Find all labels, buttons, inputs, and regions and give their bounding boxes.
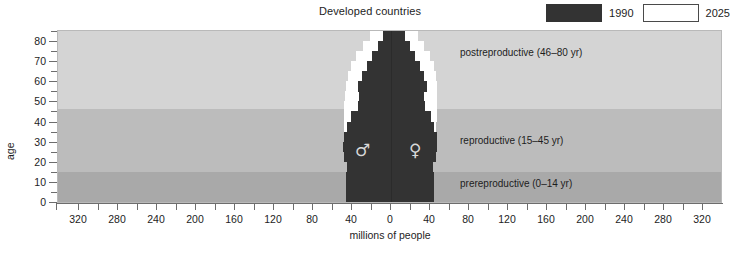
y-tick-label-70: 70	[34, 55, 46, 67]
x-tick-label-10: 80	[462, 213, 474, 225]
y-tick-label-50: 50	[34, 95, 46, 107]
x-tick-label-8: 0	[387, 213, 393, 225]
x-tick-label-9: 40	[423, 213, 435, 225]
bar-1990-male-45-49	[358, 101, 391, 112]
bar-1990-female-50-54	[391, 91, 424, 102]
y-tick-label-80: 80	[34, 35, 46, 47]
y-tick-label-30: 30	[34, 136, 46, 148]
x-tick-280	[663, 203, 664, 210]
bar-1990-male-65-69	[367, 61, 391, 72]
x-tick--200	[195, 203, 196, 210]
age-band-label-2: postreproductive (46–80 yr)	[460, 47, 582, 58]
x-tick-80	[468, 203, 469, 210]
y-tick-label-60: 60	[34, 75, 46, 87]
y-tick-70	[49, 61, 57, 62]
bar-1990-male-0-4	[346, 192, 391, 203]
x-tick--100	[293, 203, 294, 210]
y-tick-50	[49, 101, 57, 102]
x-tick--180	[215, 203, 216, 210]
bar-1990-female-80-84	[391, 31, 405, 42]
x-tick--240	[156, 203, 157, 210]
bar-1990-female-55-59	[391, 81, 427, 92]
y-tick-label-0: 0	[40, 196, 46, 208]
bar-1990-male-60-64	[362, 71, 391, 82]
x-tick--300	[98, 203, 99, 210]
x-tick--280	[117, 203, 118, 210]
bar-1990-male-40-44	[351, 111, 391, 122]
x-tick-240	[624, 203, 625, 210]
male-symbol-icon: ♂	[355, 142, 370, 159]
bar-1990-female-75-79	[391, 41, 410, 52]
x-tick--40	[351, 203, 352, 210]
age-band-label-0: prereproductive (0–14 yr)	[460, 178, 572, 189]
bar-1990-female-60-64	[391, 71, 424, 82]
y-tick-60	[49, 81, 57, 82]
bar-1990-male-70-74	[372, 51, 391, 62]
x-axis-title: millions of people	[57, 229, 723, 241]
x-tick-20	[410, 203, 411, 210]
bar-1990-male-10-14	[346, 172, 391, 183]
x-tick-180	[566, 203, 567, 210]
x-tick--220	[176, 203, 177, 210]
x-tick-label-3: 200	[186, 213, 204, 225]
y-axis: age 01020304050607080	[0, 30, 57, 204]
legend-label-2025: 2025	[706, 7, 730, 19]
center-axis-line	[391, 31, 392, 202]
plot-area: prereproductive (0–14 yr)reproductive (1…	[57, 30, 722, 203]
y-tick-40	[49, 122, 57, 123]
x-tick-label-7: 40	[345, 213, 357, 225]
bar-1990-male-35-39	[347, 122, 391, 133]
y-tick-20	[49, 162, 57, 163]
bar-1990-male-5-9	[346, 182, 391, 193]
x-tick-260	[644, 203, 645, 210]
y-tick-label-20: 20	[34, 156, 46, 168]
bar-1990-female-70-74	[391, 51, 415, 62]
y-tick-label-40: 40	[34, 116, 46, 128]
x-tick--260	[137, 203, 138, 210]
legend-label-1990: 1990	[609, 7, 633, 19]
bar-1990-female-0-4	[391, 192, 434, 203]
x-tick-label-13: 200	[576, 213, 594, 225]
x-axis-origin-tick	[56, 203, 57, 210]
bar-1990-female-10-14	[391, 172, 434, 183]
x-tick-60	[449, 203, 450, 210]
legend-swatch-1990	[546, 4, 602, 22]
legend-entry-2025: 2025	[643, 4, 730, 22]
x-tick-label-11: 120	[498, 213, 516, 225]
x-tick-140	[527, 203, 528, 210]
x-tick-label-6: 80	[306, 213, 318, 225]
bar-1990-male-15-19	[347, 162, 391, 173]
x-axis: millions of people 320280240200160120804…	[57, 203, 723, 243]
x-tick-label-15: 280	[654, 213, 672, 225]
y-axis-title: age	[4, 142, 16, 160]
x-tick-label-5: 120	[264, 213, 282, 225]
x-tick-label-16: 320	[693, 213, 711, 225]
x-tick-label-2: 240	[147, 213, 165, 225]
x-tick-0	[390, 203, 391, 210]
bar-1990-female-15-19	[391, 162, 433, 173]
x-tick-320	[702, 203, 703, 210]
bar-1990-male-55-59	[358, 81, 391, 92]
x-tick-label-4: 160	[225, 213, 243, 225]
bar-1990-male-80-84	[383, 31, 391, 42]
y-tick-30	[49, 142, 57, 143]
x-tick-40	[429, 203, 430, 210]
y-tick-80	[49, 41, 57, 42]
bar-1990-female-45-49	[391, 101, 425, 112]
bar-1990-male-50-54	[359, 91, 391, 102]
x-tick-160	[546, 203, 547, 210]
bar-1990-female-40-44	[391, 111, 431, 122]
legend-swatch-2025	[643, 4, 699, 22]
bar-1990-female-35-39	[391, 122, 434, 133]
x-tick-200	[585, 203, 586, 210]
x-tick--20	[371, 203, 372, 210]
bar-1990-female-5-9	[391, 182, 434, 193]
female-symbol-icon: ♀	[409, 142, 421, 159]
x-tick--80	[312, 203, 313, 210]
bar-1990-male-75-79	[378, 41, 391, 52]
y-tick-label-10: 10	[34, 176, 46, 188]
chart-legend: 1990 2025	[546, 4, 730, 22]
legend-entry-1990: 1990	[546, 4, 633, 22]
population-pyramid-figure: Developed countries 1990 2025 age 010203…	[0, 0, 744, 254]
x-tick-label-1: 280	[108, 213, 126, 225]
